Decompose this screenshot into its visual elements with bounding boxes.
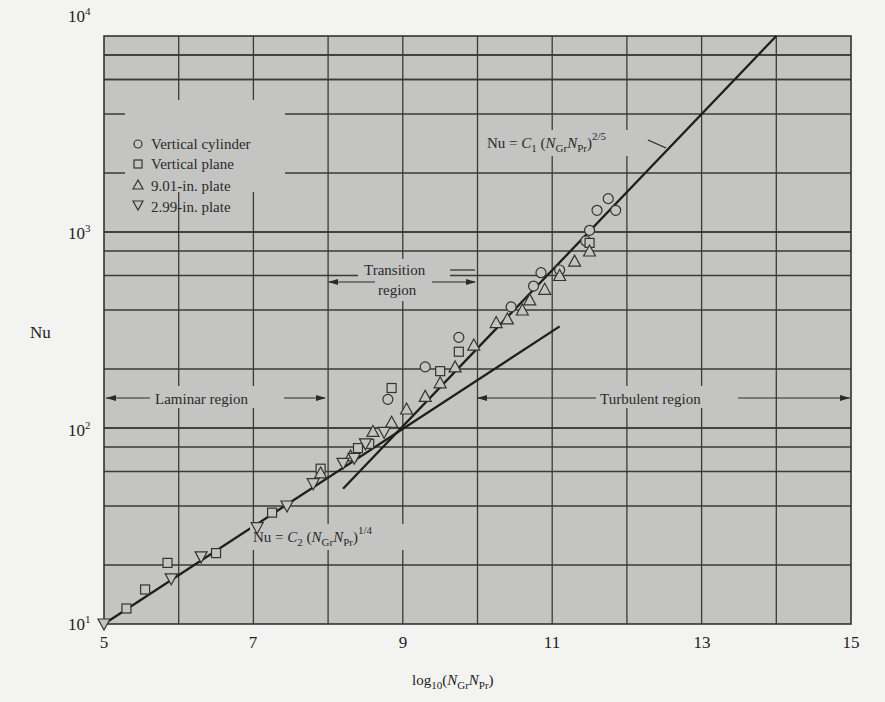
turbulent-region-label: Turbulent region (600, 391, 701, 407)
square-marker-icon (353, 444, 362, 453)
x-tick: 11 (544, 633, 560, 652)
square-marker-icon (122, 604, 131, 613)
square-marker-icon (454, 347, 463, 356)
x-tick: 9 (399, 633, 408, 652)
square-marker-icon (141, 585, 150, 594)
circle-marker-icon (529, 281, 539, 291)
equation-laminar: Nu = C2 (NGrNPr)1/4 (250, 524, 418, 550)
circle-marker-icon (420, 362, 430, 372)
circle-marker-icon (383, 394, 393, 404)
square-marker-icon (436, 367, 445, 376)
laminar-region-label: Laminar region (155, 391, 248, 407)
square-marker-icon (268, 508, 277, 517)
y-axis-ticks: 104 103 102 101 (68, 5, 91, 634)
svg-text:Vertical cylinder: Vertical cylinder (151, 136, 251, 152)
square-marker-icon (387, 383, 396, 392)
circle-marker-icon (592, 205, 602, 215)
x-tick: 7 (249, 633, 258, 652)
x-tick: 13 (694, 633, 711, 652)
nusselt-correlation-chart: 104 103 102 101 Nu 5 7 9 11 13 15 log10(… (0, 0, 885, 702)
y-tick-10e2: 102 (68, 419, 91, 440)
y-tick-10e4: 104 (68, 5, 91, 26)
y-tick-10e3: 103 (68, 222, 91, 243)
circle-marker-icon (603, 194, 613, 204)
x-axis-label: log10(NGrNPr) (412, 672, 494, 691)
transition-region-label: region (378, 282, 417, 298)
y-tick-10e1: 101 (68, 613, 91, 634)
svg-text:9.01-in. plate: 9.01-in. plate (151, 178, 231, 194)
circle-marker-icon (506, 302, 516, 312)
square-marker-icon (163, 558, 172, 567)
x-tick: 15 (843, 633, 860, 652)
transition-region-label: Transition (364, 262, 426, 278)
circle-marker-icon (585, 225, 595, 235)
x-tick: 5 (100, 633, 109, 652)
circle-marker-icon (536, 268, 546, 278)
circle-marker-icon (454, 332, 464, 342)
legend-item-vertical-cylinder: Vertical cylinder (134, 136, 251, 152)
square-marker-icon (212, 549, 221, 558)
y-axis-label: Nu (30, 323, 51, 342)
svg-text:Vertical plane: Vertical plane (151, 156, 234, 172)
circle-marker-icon (611, 205, 621, 215)
x-axis-ticks: 5 7 9 11 13 15 (100, 633, 860, 652)
svg-text:2.99-in. plate: 2.99-in. plate (151, 199, 231, 215)
equation-turbulent: Nu = C1 (NGrNPr)2/5 (482, 130, 666, 156)
